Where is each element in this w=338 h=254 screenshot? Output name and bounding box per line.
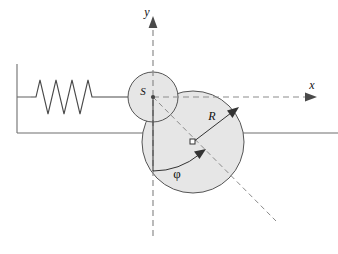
y-axis-label: y [143, 5, 150, 19]
arrow-up-icon [149, 16, 158, 28]
origin-point-marker [151, 95, 155, 99]
spring-coil-path [31, 80, 128, 114]
arrow-right-icon [305, 93, 317, 102]
disc-centre-marker [190, 139, 195, 144]
diagram-canvas: y x S R φ [0, 0, 338, 254]
centre-of-mass-label: S [140, 85, 146, 97]
spring [31, 80, 128, 114]
angle-label: φ [173, 166, 181, 181]
physics-diagram-figure: y x S R φ [0, 0, 338, 254]
x-axis-label: x [308, 78, 315, 92]
radius-label: R [207, 109, 216, 123]
